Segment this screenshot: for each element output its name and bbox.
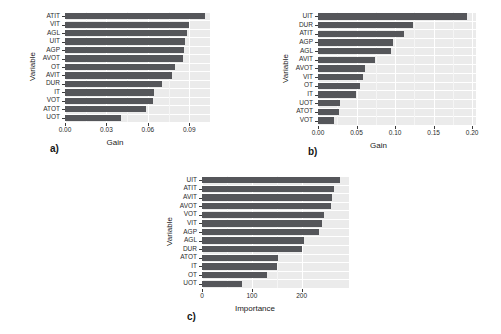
- bar: [318, 83, 360, 89]
- y-axis-tick-label: DUR: [46, 80, 60, 87]
- figure-container: Variable Gain a) ATITVITAGLUITAGPAVOTOTA…: [0, 0, 501, 334]
- y-axis-tick-label: OT: [188, 272, 197, 279]
- y-axis-tick: [315, 60, 318, 61]
- y-axis-tick: [315, 103, 318, 104]
- gridline-vertical: [395, 12, 396, 125]
- y-axis-tick: [315, 42, 318, 43]
- panel-c-y-axis-title: Variable: [165, 176, 174, 288]
- y-axis-tick: [62, 25, 65, 26]
- y-axis-tick-label: UIT: [303, 13, 313, 20]
- y-axis-tick: [315, 51, 318, 52]
- bar: [65, 22, 189, 28]
- y-axis-tick: [315, 121, 318, 122]
- y-axis-tick: [62, 84, 65, 85]
- bar: [318, 109, 339, 115]
- y-axis-tick: [199, 249, 202, 250]
- bar: [202, 203, 331, 209]
- y-axis-tick-label: VIT: [303, 74, 313, 81]
- bar: [318, 74, 363, 80]
- y-axis-tick: [62, 59, 65, 60]
- x-axis-tick-label: 0.00: [59, 127, 72, 134]
- y-axis-tick: [62, 33, 65, 34]
- y-axis-tick-label: ATIT: [46, 13, 60, 20]
- y-axis-tick-label: VOT: [184, 211, 197, 218]
- y-axis-tick-label: IT: [191, 263, 197, 270]
- y-axis-tick-label: AVIT: [299, 56, 313, 63]
- bar: [202, 220, 322, 226]
- bar: [65, 98, 153, 104]
- y-axis-tick-label: UIT: [50, 38, 60, 45]
- bar: [318, 57, 375, 63]
- gridline-vertical: [189, 12, 190, 122]
- y-axis-tick: [62, 109, 65, 110]
- y-axis-tick-label: ATOT: [296, 108, 313, 115]
- panel-a-plot-area: [65, 12, 210, 122]
- x-axis-tick-label: 0.00: [312, 130, 325, 137]
- y-axis-tick: [199, 275, 202, 276]
- bar: [65, 30, 187, 36]
- y-axis-tick: [199, 223, 202, 224]
- y-axis-tick-label: AVIT: [46, 72, 60, 79]
- bar: [202, 263, 277, 269]
- gridline-vertical: [472, 12, 473, 125]
- y-axis-tick: [199, 189, 202, 190]
- y-axis-tick-label: AVOT: [296, 65, 313, 72]
- gridline-vertical-minor: [414, 12, 415, 125]
- y-axis-tick-label: VOT: [300, 117, 313, 124]
- y-axis-tick-label: AVIT: [183, 194, 197, 201]
- bar: [318, 31, 404, 37]
- x-axis-tick-label: 100: [246, 293, 257, 300]
- panel-b-plot-area: [318, 12, 476, 125]
- bar: [202, 237, 304, 243]
- y-axis-tick: [62, 16, 65, 17]
- bar: [202, 246, 302, 252]
- x-axis-tick-label: 200: [296, 293, 307, 300]
- y-axis-tick: [199, 258, 202, 259]
- y-axis-tick-label: AGP: [299, 39, 313, 46]
- y-axis-tick: [315, 77, 318, 78]
- x-axis-tick-label: 0.03: [100, 127, 113, 134]
- bar: [65, 72, 172, 78]
- panel-b: Variable Gain b) UITDURATITAGPAGLAVITAVO…: [256, 0, 501, 170]
- bar: [202, 272, 267, 278]
- y-axis-tick: [315, 86, 318, 87]
- y-axis-tick: [315, 112, 318, 113]
- y-axis-tick: [199, 215, 202, 216]
- x-axis-tick-label: 0: [200, 293, 204, 300]
- y-axis-tick: [62, 67, 65, 68]
- bar: [65, 38, 185, 44]
- y-axis-tick-label: DUR: [183, 246, 197, 253]
- bar: [202, 281, 242, 287]
- y-axis-tick-label: AVOT: [180, 203, 197, 210]
- x-axis-tick-label: 0.06: [142, 127, 155, 134]
- y-axis-tick: [199, 241, 202, 242]
- y-axis-tick-label: VIT: [187, 220, 197, 227]
- y-axis-tick: [199, 284, 202, 285]
- y-axis-tick-label: ATIT: [183, 185, 197, 192]
- y-axis-tick-label: VOT: [47, 97, 60, 104]
- bar: [65, 106, 146, 112]
- bar: [65, 115, 121, 121]
- y-axis-tick-label: UOT: [299, 100, 313, 107]
- y-axis-tick: [62, 101, 65, 102]
- bar: [318, 22, 413, 28]
- x-axis-tick-label: 0.20: [466, 130, 479, 137]
- y-axis-tick: [62, 50, 65, 51]
- panel-a-letter: a): [50, 143, 59, 154]
- panel-b-y-axis-title: Variable: [281, 12, 290, 125]
- bar: [318, 48, 391, 54]
- bar: [65, 89, 154, 95]
- y-axis-tick-label: AGL: [184, 237, 197, 244]
- y-axis-tick-label: AVOT: [43, 55, 60, 62]
- y-axis-tick-label: OT: [304, 82, 313, 89]
- panel-c-letter: c): [187, 311, 196, 322]
- x-axis-tick-label: 0.09: [183, 127, 196, 134]
- y-axis-tick-label: AGL: [300, 48, 313, 55]
- y-axis-tick: [62, 92, 65, 93]
- bar: [318, 13, 467, 19]
- bar: [202, 255, 278, 261]
- bar: [202, 212, 324, 218]
- bar: [202, 186, 334, 192]
- bar: [318, 65, 365, 71]
- y-axis-tick-label: ATIT: [299, 30, 313, 37]
